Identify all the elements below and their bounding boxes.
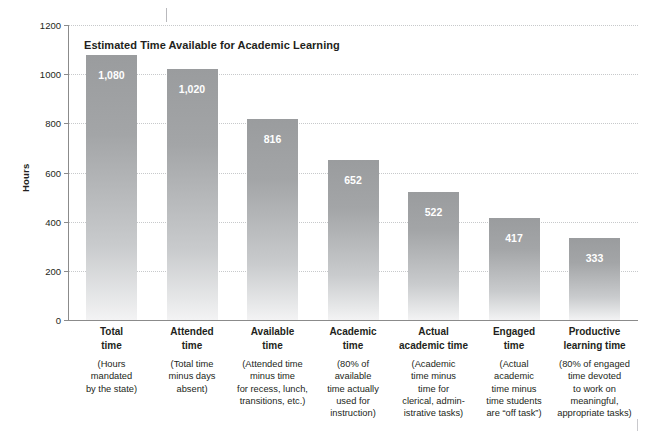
gridline [69, 123, 638, 124]
y-tick-label: 1000 [40, 69, 61, 80]
tick-mark [64, 222, 68, 223]
y-tick-label: 800 [45, 118, 61, 129]
bar-value-label: 522 [408, 206, 459, 218]
x-category-name: Productive learning time [547, 325, 643, 352]
gridline [69, 74, 638, 75]
bar[interactable]: 1,080 [86, 55, 137, 321]
y-tick-label: 600 [45, 167, 61, 178]
y-tick-label: 1200 [40, 20, 61, 31]
x-axis-category-labels: Total time(Hours mandated by the state)A… [68, 325, 649, 434]
bar[interactable]: 652 [328, 160, 379, 320]
y-tick-label: 400 [45, 216, 61, 227]
tick-mark [64, 320, 68, 321]
x-axis-line [68, 320, 638, 321]
x-category-7: Productive learning time(80% of engaged … [547, 325, 643, 419]
tick-mark [64, 173, 68, 174]
bar[interactable]: 522 [408, 192, 459, 320]
bar[interactable]: 816 [247, 119, 298, 320]
tick-mark [64, 271, 68, 272]
y-tick-label: 200 [45, 265, 61, 276]
y-axis-title: Hours [12, 148, 38, 208]
bar[interactable]: 417 [489, 218, 540, 321]
bar-value-label: 333 [569, 252, 620, 264]
bar-value-label: 652 [328, 174, 379, 186]
bar-value-label: 816 [247, 133, 298, 145]
y-tick-label: 0 [56, 315, 61, 326]
bar-chart-figure: Hours 020040060080010001200 Estimated Ti… [0, 0, 649, 434]
plot-area: 020040060080010001200 Estimated Time Ava… [68, 25, 638, 321]
tick-mark [64, 25, 68, 26]
gridline [69, 25, 638, 26]
tick-mark [64, 123, 68, 124]
chart-title: Estimated Time Available for Academic Le… [84, 39, 340, 51]
bar-value-label: 1,080 [86, 69, 137, 81]
bar[interactable]: 333 [569, 238, 620, 320]
tick-mark [64, 74, 68, 75]
scan-artifact-top-left [166, 8, 167, 22]
scan-artifact-bottom-right [637, 419, 638, 431]
bar-value-label: 1,020 [167, 83, 218, 95]
x-category-description: (80% of engaged time devoted to work on … [547, 358, 643, 419]
bar-value-label: 417 [489, 232, 540, 244]
bar[interactable]: 1,020 [167, 69, 218, 320]
